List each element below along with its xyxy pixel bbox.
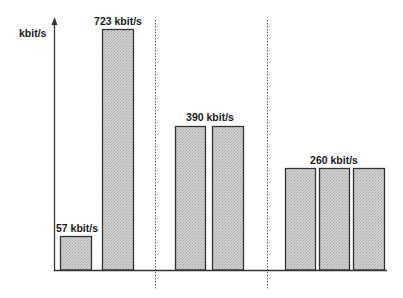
bar-390-b bbox=[213, 127, 244, 271]
bar-57 bbox=[61, 237, 92, 271]
bar-260-b bbox=[320, 169, 350, 271]
bar-723 bbox=[103, 30, 134, 271]
group-label-390: 390 kbit/s bbox=[186, 111, 234, 123]
group-label-260: 260 kbit/s bbox=[310, 154, 358, 166]
y-axis-label: kbit/s bbox=[19, 27, 46, 39]
bar-260-a bbox=[286, 169, 316, 271]
bars bbox=[61, 30, 385, 271]
bar-260-c bbox=[354, 169, 385, 271]
y-axis-arrow-icon bbox=[52, 17, 58, 25]
bar-390-a bbox=[176, 127, 206, 271]
bar-label-723: 723 kbit/s bbox=[94, 15, 142, 27]
bar-chart bbox=[0, 0, 403, 298]
bar-label-57: 57 kbit/s bbox=[56, 222, 98, 234]
